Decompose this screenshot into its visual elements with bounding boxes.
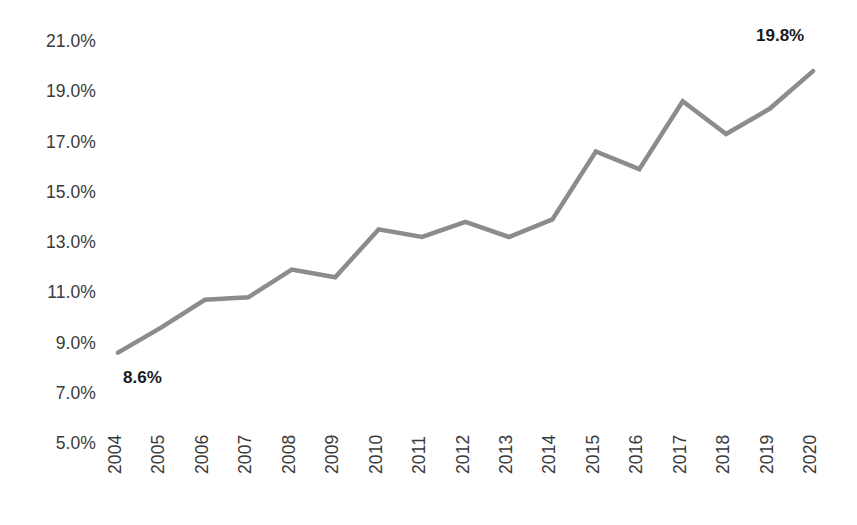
first-point-label: 8.6% bbox=[123, 368, 162, 388]
x-axis-tick-label: 2006 bbox=[192, 435, 213, 474]
x-axis-tick-label: 2019 bbox=[757, 435, 778, 474]
x-axis-tick-label: 2005 bbox=[148, 435, 169, 474]
x-axis-tick-label: 2017 bbox=[670, 435, 691, 474]
line-chart: 5.0%7.0%9.0%11.0%13.0%15.0%17.0%19.0%21.… bbox=[0, 0, 857, 525]
x-axis: 2004200520062007200820092010201120122013… bbox=[0, 0, 857, 525]
x-axis-tick-label: 2010 bbox=[366, 435, 387, 474]
x-axis-tick-label: 2014 bbox=[539, 435, 560, 474]
x-axis-tick-label: 2012 bbox=[453, 435, 474, 474]
x-axis-tick-label: 2013 bbox=[496, 435, 517, 474]
last-point-label: 19.8% bbox=[756, 26, 804, 46]
x-axis-tick-label: 2008 bbox=[279, 435, 300, 474]
x-axis-tick-label: 2016 bbox=[626, 435, 647, 474]
x-axis-tick-label: 2011 bbox=[409, 436, 430, 474]
x-axis-tick-label: 2020 bbox=[800, 435, 821, 474]
x-axis-tick-label: 2018 bbox=[713, 435, 734, 474]
x-axis-tick-label: 2007 bbox=[235, 435, 256, 474]
x-axis-tick-label: 2015 bbox=[583, 435, 604, 474]
x-axis-tick-label: 2004 bbox=[105, 435, 126, 474]
x-axis-tick-label: 2009 bbox=[322, 435, 343, 474]
